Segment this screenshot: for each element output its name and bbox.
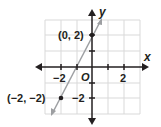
x-axis-label: x — [143, 50, 152, 64]
coordinate-plane: (0, 2) (−2, −2) y x O −2 2 −2 — [0, 0, 161, 127]
x-axis-arrow-right — [142, 63, 149, 71]
origin-label: O — [81, 71, 90, 83]
x-axis-arrow-left — [35, 63, 42, 71]
line-arrow-top — [97, 18, 102, 25]
x-tick-label-neg2: −2 — [53, 72, 66, 84]
y-tick-label-neg2: −2 — [72, 92, 85, 104]
point-label-0-2: (0, 2) — [58, 29, 84, 41]
y-axis-label: y — [98, 5, 107, 19]
y-axis-arrow-top — [88, 9, 96, 16]
point-label-neg2-neg2: (−2, −2) — [7, 92, 46, 104]
point-neg2-neg2 — [59, 96, 64, 101]
y-axis-arrow-bottom — [88, 118, 96, 125]
point-0-2 — [90, 33, 95, 38]
x-tick-label-2: 2 — [120, 72, 126, 84]
